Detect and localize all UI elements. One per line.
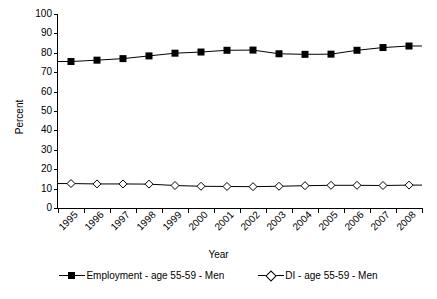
y-tick-label: 70	[28, 67, 52, 77]
data-point-marker	[406, 43, 413, 50]
y-tick-label: 30	[28, 145, 52, 155]
data-point-marker	[120, 55, 127, 62]
data-point-marker	[67, 180, 75, 188]
chart-container: Percent 1009080706050403020100 199519961…	[0, 0, 437, 299]
y-axis-tick	[54, 33, 58, 34]
open-diamond-marker-icon	[258, 271, 284, 281]
legend-label-employment: Employment - age 55-59 - Men	[86, 270, 224, 281]
x-tick-label: 2003	[260, 209, 288, 237]
data-point-marker	[223, 182, 231, 190]
y-tick-label: 100	[28, 9, 52, 19]
series-di	[58, 180, 422, 191]
y-tick-label: 10	[28, 184, 52, 194]
y-axis-tick	[54, 72, 58, 73]
data-point-marker	[354, 47, 361, 54]
x-axis-title: Year	[0, 249, 437, 260]
legend-label-di: DI - age 55-59 - Men	[285, 270, 377, 281]
x-tick-label: 2006	[338, 209, 366, 237]
data-point-marker	[302, 51, 309, 58]
legend-item-employment: Employment - age 55-59 - Men	[59, 270, 224, 281]
data-point-marker	[405, 181, 413, 189]
y-axis-tick	[54, 189, 58, 190]
x-axis-tick-labels: 1995199619971998199920002001200220032004…	[57, 209, 427, 249]
data-point-marker	[145, 180, 153, 188]
series-canvas	[58, 14, 422, 208]
data-point-marker	[379, 181, 387, 189]
data-point-marker	[380, 44, 387, 51]
data-point-marker	[146, 52, 153, 59]
x-tick-label: 2000	[182, 209, 210, 237]
data-point-marker	[197, 182, 205, 190]
x-tick-label: 2007	[364, 209, 392, 237]
x-tick-label: 1996	[78, 209, 106, 237]
data-point-marker	[301, 182, 309, 190]
data-point-marker	[171, 181, 179, 189]
plot-inner	[58, 14, 422, 208]
y-axis-tick	[54, 169, 58, 170]
y-axis-tick	[54, 53, 58, 54]
data-point-marker	[68, 58, 75, 65]
x-tick-label: 1995	[52, 209, 80, 237]
y-tick-label: 40	[28, 125, 52, 135]
data-point-marker	[224, 47, 231, 54]
data-point-marker	[353, 181, 361, 189]
y-tick-label: 90	[28, 28, 52, 38]
y-axis-tick	[54, 92, 58, 93]
filled-square-marker-icon	[59, 271, 85, 281]
x-tick-label: 1999	[156, 209, 184, 237]
data-point-marker	[327, 181, 335, 189]
y-axis-tick	[54, 14, 58, 15]
y-axis-tick-labels: 1009080706050403020100	[28, 9, 52, 209]
y-tick-label: 60	[28, 87, 52, 97]
series-line	[58, 184, 422, 187]
data-point-marker	[172, 50, 179, 57]
y-axis-tick	[54, 130, 58, 131]
x-tick-label: 2002	[234, 209, 262, 237]
y-axis-title: Percent	[14, 72, 26, 162]
y-tick-label: 80	[28, 48, 52, 58]
x-tick-label: 2005	[312, 209, 340, 237]
y-axis-tick	[54, 150, 58, 151]
data-point-marker	[93, 180, 101, 188]
series-line	[58, 46, 422, 62]
x-tick-label: 2008	[390, 209, 418, 237]
y-axis-tick	[54, 111, 58, 112]
data-point-marker	[94, 57, 101, 64]
data-point-marker	[249, 183, 257, 191]
legend-item-di: DI - age 55-59 - Men	[258, 270, 377, 281]
chart-legend: Employment - age 55-59 - Men DI - age 55…	[0, 270, 437, 281]
data-point-marker	[250, 47, 257, 54]
y-tick-label: 50	[28, 106, 52, 116]
plot-area	[57, 14, 422, 209]
data-point-marker	[275, 182, 283, 190]
y-tick-label: 0	[28, 203, 52, 213]
series-employment	[58, 43, 422, 66]
x-tick-label: 2001	[208, 209, 236, 237]
y-tick-label: 20	[28, 164, 52, 174]
x-tick-label: 1998	[130, 209, 158, 237]
x-tick-label: 2004	[286, 209, 314, 237]
data-point-marker	[119, 180, 127, 188]
x-tick-label: 1997	[104, 209, 132, 237]
data-point-marker	[198, 49, 205, 56]
data-point-marker	[276, 50, 283, 57]
data-point-marker	[328, 51, 335, 58]
